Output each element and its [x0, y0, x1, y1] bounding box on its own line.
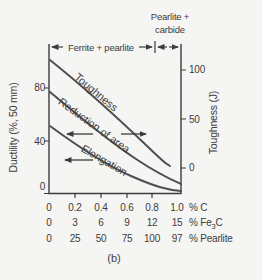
right-axis-tick-50: 50	[189, 114, 200, 125]
x-c-tick-10: 1.0	[164, 202, 190, 213]
x-pearlite-tick-100: 100	[139, 233, 165, 244]
x-pearlite-tick-50: 50	[88, 233, 114, 244]
region-label-ferrite-pearlite: Ferrite + pearlite	[61, 41, 141, 54]
x-fe3c-unit-pre: % Fe	[189, 217, 212, 228]
x-c-tick-04: 0.4	[88, 202, 114, 213]
x-c-tick-02: 0.2	[62, 202, 88, 213]
region-label-pearlite-carbide-line2: carbide	[138, 23, 202, 36]
region-label-pearlite-carbide: Pearlite + carbide	[138, 10, 202, 36]
left-axis-title: Ductility (%, 50 mm)	[7, 53, 20, 203]
x-fe3c-tick-6: 6	[88, 217, 114, 228]
right-axis-tick-100: 100	[189, 64, 205, 75]
x-fe3c-tick-9: 9	[114, 217, 140, 228]
x-fe3c-tick-15: 15	[164, 217, 190, 228]
x-pearlite-tick-0: 0	[36, 233, 62, 244]
left-axis-tick-80: 80	[23, 82, 45, 93]
figure-mechanical-properties-vs-carbon: Pearlite + carbide Ferrite + pearlite Du…	[0, 0, 262, 280]
left-axis-tick-40: 40	[23, 136, 45, 147]
x-c-tick-06: 0.6	[114, 202, 140, 213]
x-pearlite-tick-97: 97	[164, 233, 190, 244]
x-pearlite-tick-25: 25	[62, 233, 88, 244]
x-c-unit: % C	[189, 202, 207, 213]
left-axis-tick-0: 0	[23, 181, 45, 192]
right-axis-ticks	[181, 70, 186, 168]
right-axis-title: Toughness (J)	[207, 48, 220, 198]
x-fe3c-unit-post: C	[216, 217, 223, 228]
figure-caption: (b)	[95, 252, 133, 265]
x-pearlite-tick-75: 75	[114, 233, 140, 244]
x-c-tick-0: 0	[36, 202, 62, 213]
x-c-tick-08: 0.8	[139, 202, 165, 213]
x-fe3c-unit: % Fe3C	[189, 217, 223, 231]
x-pearlite-unit: % Pearlite	[189, 233, 233, 244]
x-fe3c-tick-3: 3	[62, 217, 88, 228]
x-fe3c-tick-0: 0	[36, 217, 62, 228]
x-fe3c-tick-12: 12	[139, 217, 165, 228]
region-label-pearlite-carbide-line1: Pearlite +	[138, 10, 202, 23]
right-axis-tick-0: 0	[189, 162, 194, 173]
